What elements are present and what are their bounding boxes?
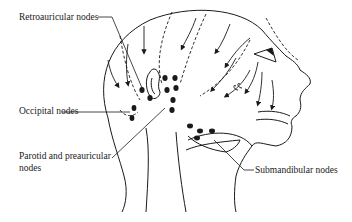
submandibular-node [187,124,193,129]
submandibular-node [209,129,215,134]
submandibular-node [197,129,203,134]
label-occipital-nodes: Occipital nodes [19,106,78,117]
lymph-nodes [130,48,274,140]
parotid-node [169,107,174,113]
drainage-arrows [108,18,274,108]
occipital-node [130,115,135,121]
preauricular-node [172,75,177,81]
preauricular-node [162,75,167,81]
submandibular-node [194,136,200,141]
label-parotid-preauricular-line1: Parotid and preauricular [19,151,111,162]
label-retroauricular-nodes: Retroauricular nodes [19,12,98,23]
label-parotid-preauricular-line2: nodes [19,163,41,174]
retroauricular-node [147,95,152,101]
preauricular-node [164,87,169,93]
label-submandibular-nodes: Submandibular nodes [255,165,338,176]
parotid-node [170,97,175,103]
occipital-node [132,105,137,111]
preauricular-node [173,85,178,91]
leader-lines [62,17,254,170]
drainage-divides [120,12,298,116]
